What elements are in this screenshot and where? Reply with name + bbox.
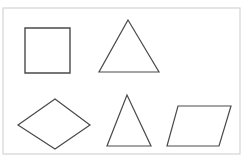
shapes-diagram (0, 0, 246, 161)
figure-canvas (0, 0, 246, 161)
shape-parallelogram (167, 106, 231, 146)
shape-equilateral-triangle (99, 20, 159, 72)
shape-rhombus (18, 99, 90, 149)
shape-square (25, 28, 70, 73)
outer-frame (3, 8, 240, 154)
shape-isosceles-triangle (107, 95, 151, 146)
